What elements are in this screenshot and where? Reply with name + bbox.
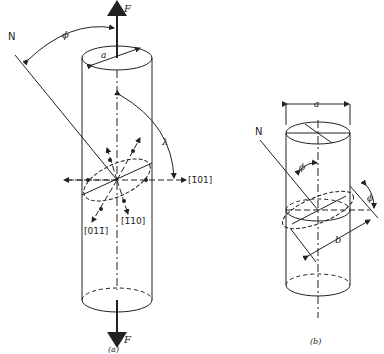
figure-b-caption: (b)	[310, 337, 321, 346]
phi-label-b-inner: ϕ	[299, 162, 305, 172]
normal-label-b: N	[255, 126, 262, 137]
figure-b	[260, 104, 378, 318]
diameter-label-b: a	[314, 99, 319, 109]
direction-label-1: [1̄01]	[188, 175, 212, 185]
plane-normal-b	[260, 140, 318, 210]
diameter-label-a: a	[101, 50, 106, 60]
force-bottom-label: F	[123, 334, 132, 345]
direction-label-3: [1̄10]	[121, 216, 145, 226]
phi-label-a: ϕ	[62, 29, 69, 40]
phi-label-b-outer: ϕ	[367, 193, 373, 203]
direction-label-2: [011̄]	[84, 226, 108, 236]
force-top-label: F	[123, 3, 132, 14]
plane-normal-a	[15, 55, 117, 180]
length-label-b: b	[335, 234, 341, 245]
figure-a-caption: (a)	[108, 345, 119, 354]
lambda-label: λ	[161, 136, 168, 147]
slip-system-diagram: F F N ϕ λ a [1̄01] [011̄] [1̄10] (a) (a)	[0, 0, 384, 354]
direction-line-3	[107, 148, 117, 180]
normal-label-a: N	[8, 31, 15, 42]
